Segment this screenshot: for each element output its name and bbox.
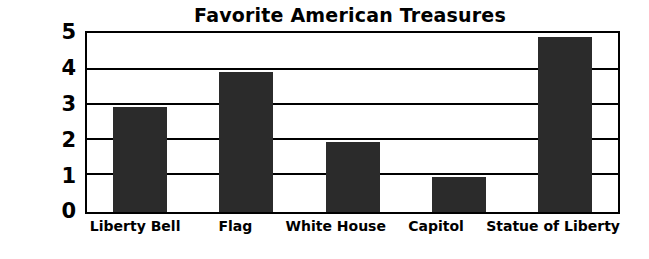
bar-capitol bbox=[432, 177, 486, 212]
bar-chart: Favorite American Treasures Number of Ki… bbox=[0, 0, 649, 259]
y-tick-4: 4 bbox=[50, 56, 76, 80]
bar-liberty-bell bbox=[113, 107, 167, 212]
plot-area bbox=[85, 31, 620, 214]
bar-slot bbox=[512, 33, 618, 212]
bar-series bbox=[87, 33, 618, 212]
bar-slot bbox=[193, 33, 299, 212]
bar-white-house bbox=[326, 142, 380, 212]
y-tick-2: 2 bbox=[50, 128, 76, 152]
chart-title: Favorite American Treasures bbox=[80, 4, 620, 26]
x-axis-tick-labels: Liberty Bell Flag White House Capitol St… bbox=[85, 218, 620, 234]
x-tick-statue-of-liberty: Statue of Liberty bbox=[486, 218, 620, 234]
x-tick-liberty-bell: Liberty Bell bbox=[85, 218, 185, 234]
bar-slot bbox=[406, 33, 512, 212]
y-tick-0: 0 bbox=[50, 199, 76, 223]
y-tick-1: 1 bbox=[50, 164, 76, 188]
y-tick-5: 5 bbox=[50, 20, 76, 44]
bar-flag bbox=[219, 72, 273, 212]
x-tick-capitol: Capitol bbox=[386, 218, 486, 234]
x-tick-flag: Flag bbox=[185, 218, 285, 234]
bar-statue-of-liberty bbox=[538, 37, 592, 212]
x-tick-white-house: White House bbox=[286, 218, 386, 234]
scan-edge bbox=[0, 249, 649, 259]
y-tick-3: 3 bbox=[50, 92, 76, 116]
bar-slot bbox=[87, 33, 193, 212]
bar-slot bbox=[299, 33, 405, 212]
